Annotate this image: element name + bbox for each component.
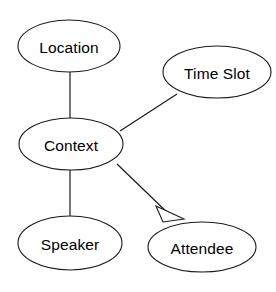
node-time-slot[interactable]: Time Slot [163, 46, 271, 98]
node-context[interactable]: Context [19, 118, 123, 170]
diagram-svg: Location Time Slot Context Speaker Atten… [0, 0, 276, 292]
node-time-slot-label: Time Slot [184, 65, 250, 82]
node-speaker[interactable]: Speaker [18, 216, 122, 270]
edge-context-time-slot[interactable] [120, 94, 177, 131]
node-location-label: Location [39, 39, 98, 56]
node-context-label: Context [44, 137, 99, 154]
node-location[interactable]: Location [18, 20, 120, 72]
node-speaker-label: Speaker [41, 236, 99, 253]
node-attendee-label: Attendee [171, 240, 234, 257]
attendee-generalization-arrowhead [156, 206, 184, 222]
diagram-canvas: Location Time Slot Context Speaker Atten… [0, 0, 276, 292]
node-attendee[interactable]: Attendee [148, 222, 256, 272]
